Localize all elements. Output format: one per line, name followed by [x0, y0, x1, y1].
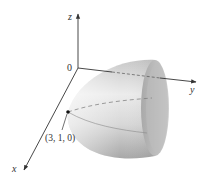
y-axis-label: y — [189, 84, 195, 95]
origin-label: 0 — [67, 62, 72, 73]
paraboloid-surface — [68, 60, 169, 159]
paraboloid-figure: z x 0 y (3, 1, 0) — [0, 0, 212, 181]
point-leader-line — [62, 114, 67, 130]
z-axis-label: z — [67, 11, 72, 22]
point-marker — [66, 110, 70, 114]
x-axis-label: x — [11, 163, 17, 174]
y-axis-visible-start — [78, 68, 112, 72]
point-label: (3, 1, 0) — [45, 133, 75, 144]
